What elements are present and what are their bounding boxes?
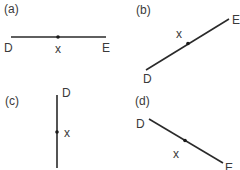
point-label-c: x (64, 126, 70, 140)
endpoint-e-a: E (102, 41, 110, 55)
panel-a: (a) D x E (4, 2, 110, 56)
endpoint-d-b: D (143, 72, 152, 86)
endpoint-d-a: D (4, 41, 13, 55)
panel-c: (c) D x E (5, 86, 71, 170)
endpoint-d-d: D (136, 117, 145, 131)
panel-a-label: (a) (4, 2, 19, 16)
point-label-b: x (176, 27, 182, 41)
panel-c-label: (c) (5, 94, 19, 108)
point-x-c (55, 130, 59, 134)
panel-b-label: (b) (136, 3, 151, 17)
panel-d: (d) D x E (135, 94, 233, 170)
point-x-d (183, 139, 187, 143)
line-segment-diagram: (a) D x E (b) x E D (c) D x E (d) D x E (0, 0, 240, 170)
endpoint-d-c: D (62, 86, 71, 100)
endpoint-e-d: E (225, 161, 233, 170)
point-x-a (56, 35, 60, 39)
point-x-b (186, 42, 190, 46)
panel-d-label: (d) (135, 94, 150, 108)
panel-b: (b) x E D (136, 3, 240, 86)
endpoint-e-b: E (232, 13, 240, 27)
endpoint-e-c: E (61, 168, 69, 170)
point-label-d: x (173, 147, 179, 161)
point-label-a: x (55, 42, 61, 56)
